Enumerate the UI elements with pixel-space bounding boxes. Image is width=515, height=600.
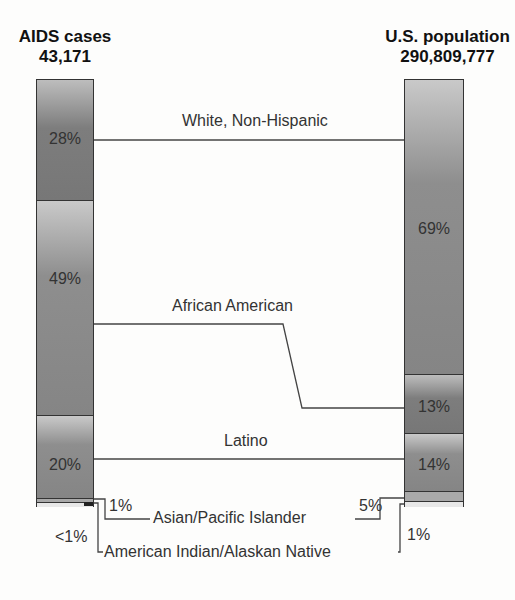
left-asian-pct: 1% [109, 497, 132, 515]
segment-label: 28% [37, 130, 93, 148]
right-asian-pct: 5% [359, 497, 382, 515]
segment-latino: 20% [37, 416, 93, 499]
us-population-bar: 69% 13% 14% [404, 79, 464, 507]
native-right-connector [398, 504, 404, 552]
segment-native [37, 503, 93, 507]
segment-native [405, 502, 463, 507]
segment-label: 13% [405, 398, 463, 416]
label-asian: Asian/Pacific Islander [153, 509, 306, 527]
segment-white: 28% [37, 80, 93, 201]
segment-asian [405, 492, 463, 502]
native-marker [84, 502, 93, 506]
segment-white: 69% [405, 80, 463, 375]
african-american-connector [93, 324, 404, 408]
segment-label: 49% [37, 270, 93, 288]
label-native: American Indian/Alaskan Native [104, 543, 331, 561]
segment-label: 69% [405, 220, 463, 238]
segment-label: 14% [405, 456, 463, 474]
label-african-american: African American [172, 297, 293, 315]
aids-cases-bar: 28% 49% 20% [36, 79, 94, 507]
segment-african-american: 13% [405, 375, 463, 434]
label-white: White, Non-Hispanic [182, 112, 328, 130]
segment-label: 20% [37, 456, 93, 474]
segment-latino: 14% [405, 434, 463, 492]
native-left-connector [93, 503, 103, 552]
label-latino: Latino [224, 432, 268, 450]
segment-african-american: 49% [37, 201, 93, 416]
right-native-pct: 1% [407, 526, 430, 544]
left-native-pct: <1% [55, 528, 87, 546]
